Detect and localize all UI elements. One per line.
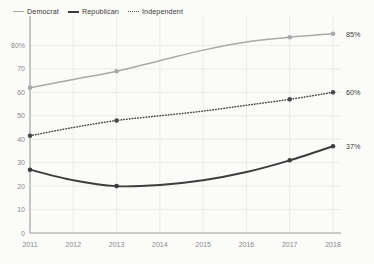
x-tick-label: 2016: [239, 241, 255, 248]
plot-area: 01020304050607080% 201120122013201420152…: [0, 0, 374, 264]
data-point-marker[interactable]: [331, 31, 336, 36]
gridlines: [30, 16, 341, 233]
data-point-marker[interactable]: [287, 35, 292, 40]
x-axis-tick-labels: 20112012201320142015201620172018: [22, 241, 340, 248]
y-tick-label: 30: [17, 159, 25, 166]
y-tick-label: 40: [17, 136, 25, 143]
y-tick-label: 0: [21, 230, 25, 237]
data-point-marker[interactable]: [287, 158, 292, 163]
data-point-marker[interactable]: [28, 85, 33, 90]
end-label-republican: 37%: [346, 142, 361, 151]
x-tick-label: 2014: [152, 241, 168, 248]
y-tick-label: 60: [17, 89, 25, 96]
data-point-marker[interactable]: [28, 133, 33, 138]
data-point-marker[interactable]: [331, 144, 336, 149]
x-tick-label: 2015: [195, 241, 211, 248]
y-tick-label: 10: [17, 206, 25, 213]
x-tick-label: 2013: [109, 241, 125, 248]
axis-lines: [30, 16, 341, 233]
x-tick-label: 2011: [22, 241, 37, 248]
y-tick-label: 20: [17, 183, 25, 190]
data-point-marker[interactable]: [114, 118, 119, 123]
data-point-marker[interactable]: [114, 184, 119, 189]
line-chart: Democrat Republican Independent 01020304…: [0, 0, 374, 264]
data-series-group: [28, 31, 336, 188]
data-point-marker[interactable]: [331, 90, 336, 95]
series-line-republican: [30, 146, 333, 186]
data-point-marker[interactable]: [114, 69, 119, 74]
end-value-labels: 85%37%60%: [346, 30, 361, 152]
y-tick-label: 80%: [11, 42, 25, 49]
series-line-democrat: [30, 34, 333, 88]
end-label-democrat: 85%: [346, 30, 361, 39]
x-tick-label: 2017: [282, 241, 298, 248]
y-axis-tick-labels: 01020304050607080%: [11, 42, 25, 237]
y-tick-label: 70: [17, 65, 25, 72]
data-point-marker[interactable]: [28, 167, 33, 172]
x-tick-label: 2012: [65, 241, 81, 248]
y-tick-label: 50: [17, 112, 25, 119]
data-point-marker[interactable]: [287, 97, 292, 102]
x-tick-label: 2018: [325, 241, 341, 248]
end-label-independent: 60%: [346, 88, 361, 97]
